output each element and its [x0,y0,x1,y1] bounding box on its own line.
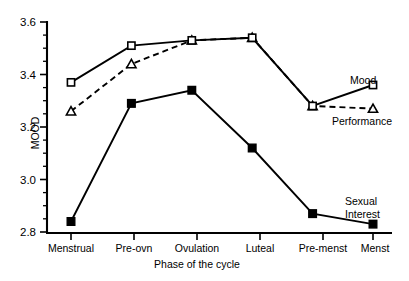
y-tick-label-3-0: 3.0 [20,174,36,186]
series-markers-performance [66,33,377,115]
y-tick-label-3-4: 3.4 [20,69,37,81]
chart-canvas: 3.6 3.4 3.2 3.0 2.8 MOOD Menstrual Pre-o… [0,0,409,281]
series-label-sexual-interest-line1: Sexual [345,195,377,207]
series-line-sexual-interest [71,90,373,224]
x-tick-label-pre-menst: Pre-menst [299,242,348,254]
y-axis-title: MOOD [29,116,41,149]
series-label-mood: Mood [350,74,376,86]
y-tick-label-3-6: 3.6 [20,16,36,28]
line-chart: 3.6 3.4 3.2 3.0 2.8 MOOD Menstrual Pre-o… [0,0,409,281]
y-tick-label-2-8: 2.8 [20,226,36,238]
x-axis-title: Phase of the cycle [154,258,240,270]
series-label-performance: Performance [332,115,392,127]
x-tick-label-luteal: Luteal [246,242,275,254]
series-line-mood [71,38,373,106]
x-tick-label-menstrual: Menstrual [48,242,94,254]
x-tick-label-pre-ovn: Pre-ovn [116,242,153,254]
series-markers-mood [67,34,376,109]
x-tick-label-menst: Menst [361,242,390,254]
series-label-sexual-interest-line2: Interest [345,208,380,220]
x-tick-label-ovulation: Ovulation [175,242,220,254]
